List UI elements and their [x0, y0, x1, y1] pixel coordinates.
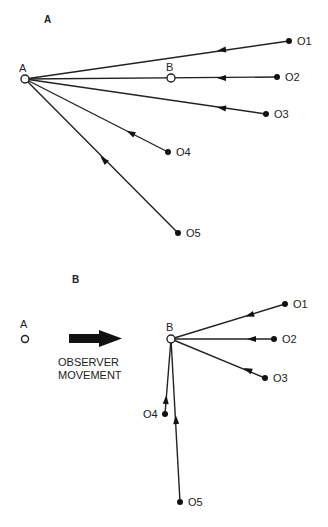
- object-label-o2: O2: [285, 71, 300, 83]
- previous-position-marker: [22, 336, 29, 343]
- flow-ray-o5: [25, 79, 178, 233]
- object-label-o3: O3: [274, 108, 289, 120]
- arrowhead-icon: [243, 368, 252, 374]
- arrowhead-icon: [127, 131, 136, 138]
- arrowhead-icon: [247, 336, 256, 342]
- panel-a-objects: O1O2O3O4O5: [165, 35, 312, 239]
- observer-movement-line1: OBSERVER: [58, 356, 119, 368]
- observer-movement-line2: MOVEMENT: [58, 369, 122, 381]
- previous-position-label: A: [20, 318, 28, 330]
- object-label-o5: O5: [186, 227, 201, 239]
- flow-ray-o2: [25, 77, 277, 79]
- observer-position-a: [21, 75, 29, 83]
- observer-movement-arrow-icon: [69, 330, 122, 347]
- future-position-b-marker: [167, 74, 175, 82]
- object-point-o5: [177, 499, 183, 505]
- observer-label-b: B: [166, 321, 173, 333]
- arrowhead-icon: [245, 311, 254, 317]
- object-point-o2: [271, 336, 277, 342]
- object-label-o2: O2: [282, 333, 297, 345]
- arrowhead-icon: [163, 395, 169, 404]
- panel-a: A A B O1O2O3O4O5: [19, 14, 312, 239]
- object-point-o5: [175, 230, 181, 236]
- object-point-o3: [263, 111, 269, 117]
- object-point-o4: [162, 411, 168, 417]
- object-point-o2: [274, 74, 280, 80]
- panel-b-title: B: [72, 274, 79, 285]
- object-label-o1: O1: [297, 35, 312, 47]
- panel-b: B A OBSERVER MOVEMENT B O1O2O3O4O5: [20, 274, 308, 508]
- object-point-o3: [262, 375, 268, 381]
- flow-ray-o3: [25, 79, 266, 114]
- panel-a-rays: [25, 41, 289, 233]
- object-point-o4: [165, 149, 171, 155]
- flow-ray-o1: [25, 41, 289, 79]
- future-position-b-label: B: [166, 61, 173, 73]
- object-point-o1: [282, 301, 288, 307]
- arrowhead-icon: [173, 415, 179, 424]
- object-label-o5: O5: [188, 496, 203, 508]
- arrowhead-icon: [217, 75, 226, 81]
- object-label-o4: O4: [176, 146, 191, 158]
- optic-flow-diagram: A A B O1O2O3O4O5 B A OBSERVER MOVEMENT B…: [0, 0, 328, 527]
- panel-b-rays: [163, 304, 285, 502]
- flow-ray-o1: [171, 304, 285, 339]
- observer-label-a: A: [19, 62, 27, 74]
- object-label-o3: O3: [273, 372, 288, 384]
- object-label-o1: O1: [293, 298, 308, 310]
- object-label-o4: O4: [143, 408, 158, 420]
- panel-a-title: A: [44, 14, 51, 25]
- object-point-o1: [286, 38, 292, 44]
- arrowhead-icon: [100, 156, 108, 164]
- observer-position-b: [167, 335, 175, 343]
